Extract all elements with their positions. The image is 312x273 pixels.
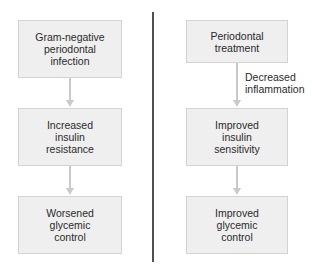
- arrow-down-icon: [66, 188, 74, 195]
- node-label: Gram-negative periodontal infection: [35, 31, 104, 67]
- node-periodontal-treatment: Periodontal treatment: [186, 20, 288, 63]
- node-label: Periodontal treatment: [210, 30, 263, 54]
- node-label: Improved insulin sensitivity: [214, 119, 260, 155]
- arrow-shaft-right-1: [236, 63, 238, 100]
- node-gram-negative-infection: Gram-negative periodontal infection: [18, 20, 122, 78]
- node-worsened-glycemic-control: Worsened glycemic control: [18, 196, 122, 254]
- arrow-shaft-left-2: [69, 166, 71, 188]
- arrow-down-icon: [233, 188, 241, 195]
- node-improved-insulin-sensitivity: Improved insulin sensitivity: [186, 108, 288, 166]
- node-increased-insulin-resistance: Increased insulin resistance: [18, 108, 122, 166]
- arrow-down-icon: [66, 100, 74, 107]
- arrow-down-icon: [233, 100, 241, 107]
- node-label: Worsened glycemic control: [46, 207, 94, 243]
- edge-label-decreased-inflammation: Decreased inflammation: [245, 71, 305, 95]
- column-divider: [152, 12, 154, 262]
- arrow-shaft-right-2: [236, 166, 238, 188]
- arrow-shaft-left-1: [69, 78, 71, 100]
- node-label: Increased insulin resistance: [46, 119, 94, 155]
- node-improved-glycemic-control: Improved glycemic control: [186, 196, 288, 254]
- node-label: Improved glycemic control: [215, 207, 259, 243]
